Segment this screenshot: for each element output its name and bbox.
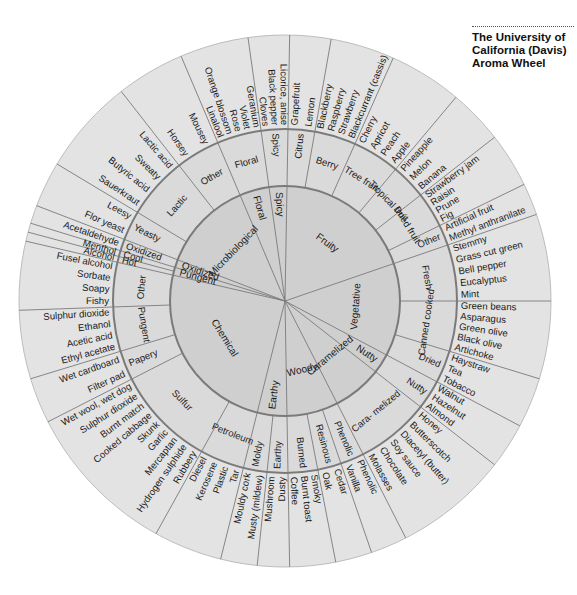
tier2-label: Earthy <box>271 441 283 469</box>
aroma-term: Soapy <box>82 282 110 295</box>
title-line-1: The University of <box>472 31 574 44</box>
aroma-term: Licorice, anise <box>278 64 290 125</box>
aroma-term: Fishy <box>86 295 109 306</box>
aroma-term: Mint <box>461 288 480 300</box>
wheel-title: The University of California (Davis) Aro… <box>472 26 574 70</box>
aroma-term: Coffee <box>289 477 301 506</box>
aroma-wheel: FruityVegetativeNuttyCaramelizedWoodyEar… <box>0 0 577 595</box>
tier2-label: Spicy <box>270 133 282 157</box>
title-line-2: California (Davis) <box>472 44 574 57</box>
tier1-label: Spicy <box>274 192 286 217</box>
title-line-3: Aroma Wheel <box>472 57 574 70</box>
aroma-term: Dusty <box>276 477 287 502</box>
